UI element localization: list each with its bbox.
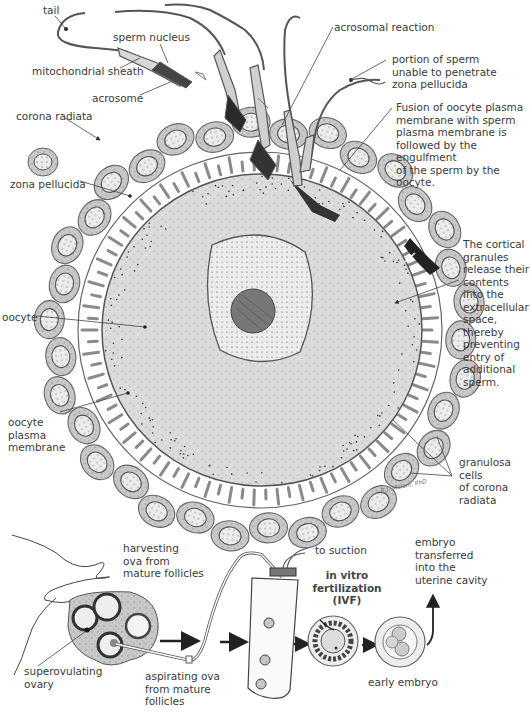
ivf-fertilized-ovum (308, 616, 358, 666)
label-tail: tail (43, 4, 59, 17)
label-ivf-title: in vitro fertilization (IVF) (307, 569, 387, 607)
label-aspirating: aspirating ova from mature follicles (145, 670, 220, 708)
label-acrosome: acrosome (92, 92, 143, 105)
label-embryo-transferred: embryo transferred into the uterine cavi… (415, 536, 488, 586)
oocyte (102, 174, 422, 486)
label-granulosa-cells: granulosa cells of corona radiata (459, 456, 530, 506)
early-embryo (375, 617, 425, 667)
label-cortical-granules: The cortical granules release their cont… (463, 238, 529, 388)
label-early-embryo: early embryo (368, 676, 438, 689)
label-harvesting: harvesting ova from mature follicles (123, 542, 204, 580)
label-oocyte-plasma-membrane: oocyte plasma membrane (8, 416, 65, 454)
label-sperm-nucleus: sperm nucleus (113, 31, 190, 44)
label-zona-pellucida: zona pellucida (10, 178, 86, 191)
superovulating-ovary (68, 592, 158, 665)
label-superovulating-ovary: superovulating ovary (24, 665, 102, 690)
label-corona-radiata: corona radiata (16, 110, 92, 123)
ivf-fertilization-diagram: tail sperm nucleus mitochondrial sheath … (0, 0, 530, 712)
label-portion-of-sperm: portion of sperm unable to penetrate zon… (392, 53, 497, 91)
label-acrosomal-reaction: acrosomal reaction (334, 21, 434, 34)
label-oocyte: oocyte (2, 311, 37, 324)
label-fusion: Fusion of oocyte plasma membrane with sp… (396, 101, 530, 189)
label-mitochondrial-sheath: mitochondrial sheath (32, 65, 144, 78)
test-tube (248, 548, 308, 698)
label-to-suction: to suction (315, 544, 367, 557)
free-granulosa-cell (28, 148, 58, 176)
nucleolus (231, 289, 275, 333)
